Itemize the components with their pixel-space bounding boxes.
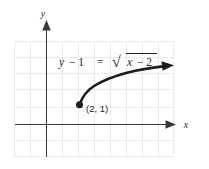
equation-minus-one: − 1 [69, 56, 84, 68]
y-axis-label: y [40, 8, 46, 19]
equation-lhs-var: y [58, 56, 65, 69]
x-axis-label: x [183, 119, 189, 130]
equation-radicand-var: x [126, 56, 133, 68]
equation-radical-sign: √ [112, 53, 121, 70]
equation-equals: = [97, 56, 104, 68]
equation-radicand-rest: − 2 [137, 56, 152, 68]
graph-figure: y x (2, 1) y − 1 = √ x − 2 [0, 0, 209, 169]
point-label-2-1: (2, 1) [86, 103, 108, 114]
